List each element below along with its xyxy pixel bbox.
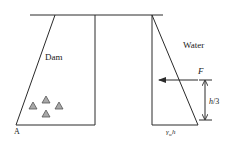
pressure-base-label: γwh [166, 128, 176, 137]
aggregate-icon [42, 110, 50, 117]
aggregate-icon [55, 102, 63, 109]
water-label: Water [183, 40, 204, 50]
pressure-hypotenuse [152, 15, 198, 125]
dam-pressure-diagram: Dam Water F h/3 γwh A [0, 0, 232, 147]
aggregate-markers [29, 96, 63, 117]
aggregate-icon [29, 102, 37, 109]
height-fraction-label: h/3 [209, 97, 219, 106]
toe-point-label: A [14, 127, 20, 136]
dam-label: Dam [45, 52, 63, 62]
height-variable: h [172, 128, 176, 136]
force-label: F [197, 66, 204, 76]
aggregate-icon [42, 96, 50, 103]
pressure-distribution [152, 15, 198, 125]
height-divisor: /3 [213, 97, 219, 106]
